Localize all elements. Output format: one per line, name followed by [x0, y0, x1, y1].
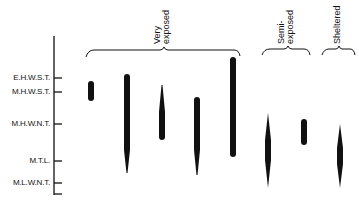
- range-bar-7: [301, 119, 307, 145]
- brace-sheltered: [322, 46, 355, 55]
- range-bar-6: [265, 113, 271, 188]
- group-label-line: exposed: [286, 10, 295, 44]
- brace-very-exposed: [86, 47, 240, 57]
- range-bar-5: [230, 57, 236, 157]
- range-bar-1: [88, 81, 94, 101]
- group-label-line: Sheltered: [333, 5, 342, 44]
- group-label-line: exposed: [162, 10, 171, 44]
- tidal-level-axis: [54, 36, 62, 195]
- range-bar-4: [194, 97, 200, 175]
- group-label-semi-exposed: Semi- exposed: [277, 10, 295, 44]
- group-label-very-exposed: Very exposed: [153, 10, 171, 44]
- level-label-mhwnt: M.H.W.N.T.: [12, 120, 50, 128]
- zonation-diagram: [0, 0, 359, 201]
- level-label-ehwst: E.H.W.S.T.: [13, 74, 50, 82]
- level-label-mlwnt: M.L.W.N.T.: [13, 179, 50, 187]
- range-bar-3: [159, 85, 165, 140]
- group-label-sheltered: Sheltered: [333, 5, 342, 44]
- group-braces: [86, 46, 355, 57]
- range-bars: [88, 57, 343, 188]
- level-label-mhwst: M.H.W.S.T.: [12, 88, 50, 96]
- level-label-mtl: M.T.L.: [29, 157, 50, 165]
- range-bar-2: [124, 74, 130, 173]
- brace-semi-exposed: [262, 46, 310, 55]
- range-bar-8: [337, 124, 343, 188]
